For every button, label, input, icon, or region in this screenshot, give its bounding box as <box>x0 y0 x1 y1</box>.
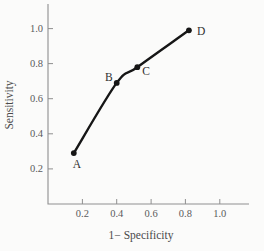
y-tick-label: 0.2 <box>30 163 43 174</box>
roc-curve-chart: 0.20.40.60.81.00.20.40.60.81.0ABCD Sensi… <box>0 0 264 251</box>
data-point-C <box>134 64 140 70</box>
x-tick-label: 0.4 <box>110 208 124 219</box>
y-tick-label: 0.6 <box>30 93 43 104</box>
data-point-B <box>114 80 120 86</box>
y-axis-title: Sensitivity <box>3 80 16 129</box>
point-label-A: A <box>73 158 82 170</box>
x-tick-label: 0.2 <box>76 208 89 219</box>
x-axis-title: 1− Specificity <box>109 229 174 242</box>
point-label-B: B <box>105 71 113 83</box>
point-label-D: D <box>197 25 205 37</box>
point-label-C: C <box>142 65 150 77</box>
y-tick-label: 1.0 <box>30 23 43 34</box>
x-tick-label: 0.8 <box>179 208 192 219</box>
y-tick-label: 0.8 <box>30 58 43 69</box>
y-tick-label: 0.4 <box>30 128 44 139</box>
data-point-A <box>71 150 77 156</box>
roc-curve-figure: 0.20.40.60.81.00.20.40.60.81.0ABCD Sensi… <box>0 0 264 251</box>
x-tick-label: 0.6 <box>145 208 158 219</box>
x-tick-label: 1.0 <box>213 208 226 219</box>
data-point-D <box>186 27 192 33</box>
